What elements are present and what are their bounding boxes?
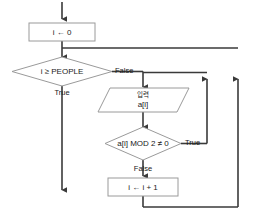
edge-label-people-true: True	[54, 88, 69, 97]
node-cond-odd-label: a[i] MOD 2 ≠ 0	[117, 139, 169, 148]
node-input-label-line2: a[i]	[138, 100, 149, 109]
node-init-box[interactable]: i ← 0	[29, 23, 95, 41]
edge-label-people-false: False	[115, 66, 133, 75]
node-cond-odd-diamond[interactable]: a[i] MOD 2 ≠ 0	[105, 127, 181, 160]
flowchart-canvas: i ← 0 i ≥ PEOPLE 입력 a[i] a[i] MOD 2 ≠ 0 …	[0, 0, 259, 218]
node-incr-label: i ← i + 1	[128, 183, 158, 192]
node-cond-people-label: i ≥ PEOPLE	[41, 67, 84, 76]
node-incr-box[interactable]: i ← i + 1	[108, 178, 178, 196]
node-init-label: i ← 0	[53, 28, 72, 37]
edge-label-odd-true: True	[185, 138, 200, 147]
node-cond-people-diamond[interactable]: i ≥ PEOPLE	[12, 57, 112, 86]
node-input-label-line1: 입력	[137, 91, 149, 99]
flowchart-svg: i ← 0 i ≥ PEOPLE 입력 a[i] a[i] MOD 2 ≠ 0 …	[0, 0, 259, 218]
node-input-parallelogram[interactable]: 입력 a[i]	[98, 88, 189, 112]
edge-label-odd-false: False	[134, 164, 152, 173]
